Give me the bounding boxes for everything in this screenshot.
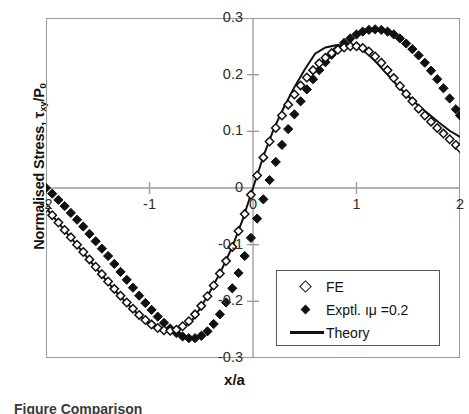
y-axis-title: Normalised Stress, τxy/P0 — [31, 42, 48, 292]
legend-item-theory: Theory — [277, 321, 439, 344]
y-axis-title-tau: τ — [31, 112, 47, 118]
y-tick-label: 0.2 — [201, 66, 243, 82]
legend-item-fe-label: FE — [326, 279, 344, 295]
legend-item-theory-label: Theory — [326, 325, 370, 341]
x-tick-label: -2 — [29, 196, 63, 212]
y-tick-label: 0.1 — [201, 122, 243, 138]
legend: FE Exptl. ıμ =0.2 Theory — [276, 270, 440, 346]
y-axis-title-denominator: /P — [31, 88, 47, 101]
line-swatch-icon — [284, 331, 326, 334]
legend-item-fe: FE — [277, 275, 439, 298]
x-tick-label: 2 — [443, 196, 469, 212]
figure-root: Normalised Stress, τxy/P0 0.30.20.10-0.1… — [0, 0, 469, 414]
y-tick-label: 0.3 — [201, 9, 243, 25]
x-tick-label: -1 — [133, 196, 167, 212]
x-tick-label: 1 — [340, 196, 374, 212]
y-tick-label: 0 — [201, 179, 243, 195]
diamond-filled-icon — [284, 306, 326, 313]
y-tick-label: -0.3 — [201, 349, 243, 365]
y-tick-label: -0.2 — [201, 292, 243, 308]
y-axis-title-prefix: Normalised Stress, — [31, 118, 47, 250]
legend-item-exptl: Exptl. ıμ =0.2 — [277, 298, 439, 321]
x-axis-title: x/a — [0, 371, 469, 388]
legend-item-exptl-label: Exptl. ıμ =0.2 — [326, 302, 408, 318]
figure-caption: Figure Comparison — [14, 401, 454, 414]
diamond-open-icon — [284, 282, 326, 291]
y-tick-label: -0.1 — [201, 236, 243, 252]
x-tick-label: 0 — [236, 196, 270, 212]
